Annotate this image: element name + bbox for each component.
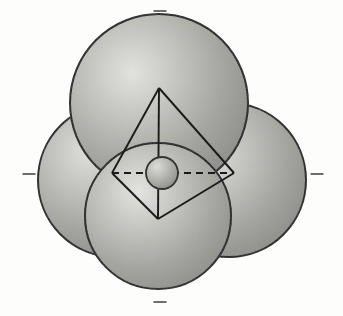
tick-left bbox=[23, 173, 36, 175]
edge-top-bottom bbox=[158, 88, 159, 219]
tick-top bbox=[154, 10, 167, 12]
tetrahedral-coordination-diagram bbox=[0, 0, 343, 316]
sphere-center bbox=[146, 157, 178, 189]
tick-right bbox=[311, 173, 324, 175]
figure-root: Tetrahedral coordination polyhedron mode… bbox=[0, 0, 343, 316]
tick-bottom bbox=[154, 301, 167, 303]
